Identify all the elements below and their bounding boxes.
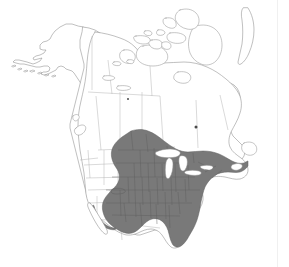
arctic-islet-d — [113, 62, 122, 66]
greenland-edge — [238, 8, 254, 64]
somerset-island — [162, 42, 171, 50]
north-america-map — [0, 0, 289, 267]
ellesmere-island — [175, 9, 199, 29]
arctic-islet-a — [157, 30, 166, 36]
melville-island — [134, 36, 151, 44]
axel-heiberg-island — [163, 18, 176, 29]
arctic-islet-b — [144, 31, 152, 36]
baffin-island — [189, 25, 223, 65]
arctic-islet-f — [117, 86, 131, 91]
right-edge-rule — [277, 0, 278, 267]
disjunct-range-patch-southwest — [111, 188, 125, 194]
devon-island — [167, 33, 186, 44]
interior-lake-dot-a — [195, 126, 198, 129]
interior-lake-dot-b — [127, 98, 129, 100]
southampton-island — [174, 72, 191, 84]
arctic-islet-e — [103, 76, 115, 81]
range-map-figure — [0, 0, 289, 267]
arctic-islet-c — [127, 60, 135, 64]
